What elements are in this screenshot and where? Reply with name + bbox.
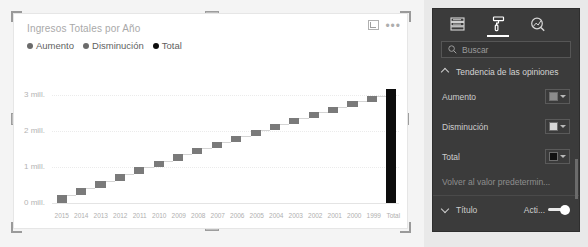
chevron-down-icon[interactable] [560,95,566,98]
title-toggle-wrap[interactable]: Acti... [524,205,570,215]
waterfall-bar[interactable] [270,124,280,130]
x-axis-tick-label: 2006 [228,212,248,224]
waterfall-connector [241,136,250,137]
screenshot-root: Ingresos Totales por Año ••• Aumento Dis… [0,0,588,247]
legend-label-aumento: Aumento [36,40,74,51]
format-pane[interactable]: Buscar Tendencia de las opiniones Aument… [424,0,588,247]
waterfall-bar[interactable] [95,181,105,188]
report-canvas[interactable]: Ingresos Totales por Año ••• Aumento Dis… [0,0,424,247]
waterfall-bar-total[interactable] [386,89,396,203]
waterfall-connector [67,195,76,196]
section-label-tendencia: Tendencia de las opiniones [456,67,559,77]
gridline [52,167,399,168]
waterfall-bar[interactable] [251,130,261,136]
section-header-tendencia[interactable]: Tendencia de las opiniones [433,65,579,79]
legend-swatch-disminucion [83,43,89,49]
color-swatch-disminucion [549,122,558,131]
x-axis-tick-label: 2012 [111,212,131,224]
x-axis-tick-label: 2015 [52,212,72,224]
waterfall-connector [261,130,270,131]
waterfall-connector [222,142,231,143]
legend-swatch-total [153,43,159,49]
color-picker-aumento[interactable] [545,89,570,104]
format-pane-inner[interactable]: Buscar Tendencia de las opiniones Aument… [432,8,580,232]
reset-to-default-link[interactable]: Volver al valor predetermin... [433,177,579,187]
legend-item-disminucion[interactable]: Disminución [83,40,144,51]
chevron-up-icon[interactable] [442,68,450,76]
chevron-down-icon[interactable] [442,206,450,214]
waterfall-connector [319,112,328,113]
row-aumento[interactable]: Aumento [433,84,579,109]
search-icon [448,45,457,54]
title-toggle-switch[interactable] [548,205,570,215]
waterfall-bar[interactable] [347,101,357,107]
waterfall-connector [338,107,347,108]
x-axis-tick-label: 2007 [208,212,228,224]
waterfall-bar[interactable] [231,136,241,142]
waterfall-connector [299,118,308,119]
more-options-icon[interactable]: ••• [385,22,401,30]
visual-title: Ingresos Totales por Año [27,23,141,34]
color-picker-disminucion[interactable] [545,119,570,134]
x-axis-tick-label: 2009 [169,212,189,224]
x-axis-tick-label: 2004 [267,212,287,224]
waterfall-connector [144,167,153,168]
x-axis-tick-label: 2011 [130,212,150,224]
x-axis-tick-label: 2002 [306,212,326,224]
analytics-magnifier-icon [530,17,546,32]
focus-mode-icon[interactable] [368,20,380,31]
plot-area[interactable]: 3 mill.2 mill.1 mill.0 mill. 20152014201… [14,59,407,228]
x-axis-tick-label: 2008 [189,212,209,224]
waterfall-bar[interactable] [212,142,222,148]
waterfall-connector [106,181,115,182]
waterfall-connector [202,148,211,149]
waterfall-bar[interactable] [57,195,67,203]
waterfall-connector [358,101,367,102]
waterfall-bar[interactable] [154,161,164,167]
waterfall-bar[interactable] [115,174,125,181]
waterfall-chart-visual[interactable]: Ingresos Totales por Año ••• Aumento Dis… [13,13,408,229]
visual-actions: ••• [368,20,401,31]
waterfall-bar[interactable] [76,188,86,195]
waterfall-bar[interactable] [173,154,183,160]
legend-item-aumento[interactable]: Aumento [27,40,74,51]
waterfall-bar[interactable] [134,167,144,174]
waterfall-bar[interactable] [367,96,377,102]
legend-item-total[interactable]: Total [153,40,182,51]
section-label-titulo: Título [456,205,477,215]
chevron-down-icon[interactable] [560,125,566,128]
row-total[interactable]: Total [433,144,579,169]
waterfall-bar[interactable] [309,112,319,118]
waterfall-bar[interactable] [328,107,338,113]
format-tab[interactable] [487,13,509,35]
pane-scrollbar[interactable] [575,159,578,199]
legend-label-total: Total [162,40,182,51]
waterfall-bar[interactable] [192,148,202,154]
waterfall-connector [86,188,95,189]
x-axis-labels: 2015201420132012201120102009200820072006… [52,212,403,224]
search-input[interactable]: Buscar [441,41,571,58]
row-disminucion[interactable]: Disminución [433,114,579,139]
pane-tab-strip[interactable] [433,9,579,39]
analytics-tab[interactable] [527,13,549,35]
x-axis-tick-label: 2014 [72,212,92,224]
section-header-titulo[interactable]: Título Acti... [433,199,579,221]
legend-swatch-aumento [27,43,33,49]
row-label-total: Total [442,152,460,162]
waterfall-bar[interactable] [289,118,299,124]
x-axis-tick-label: 1999 [364,212,384,224]
fields-tab[interactable] [447,13,469,35]
waterfall-connector [183,154,192,155]
gridline [52,131,399,132]
x-axis-tick-label: 2010 [150,212,170,224]
pane-divider [433,195,579,196]
x-axis-tick-label: 2001 [325,212,345,224]
fields-icon [450,17,466,31]
y-axis-tick-label: 2 mill. [24,126,45,135]
y-axis-tick-label: 0 mill. [24,198,45,207]
color-picker-total[interactable] [545,149,570,164]
waterfall-connector [125,174,134,175]
search-placeholder: Buscar [462,45,488,55]
x-axis-tick-label: 2000 [345,212,365,224]
chevron-down-icon[interactable] [560,155,566,158]
